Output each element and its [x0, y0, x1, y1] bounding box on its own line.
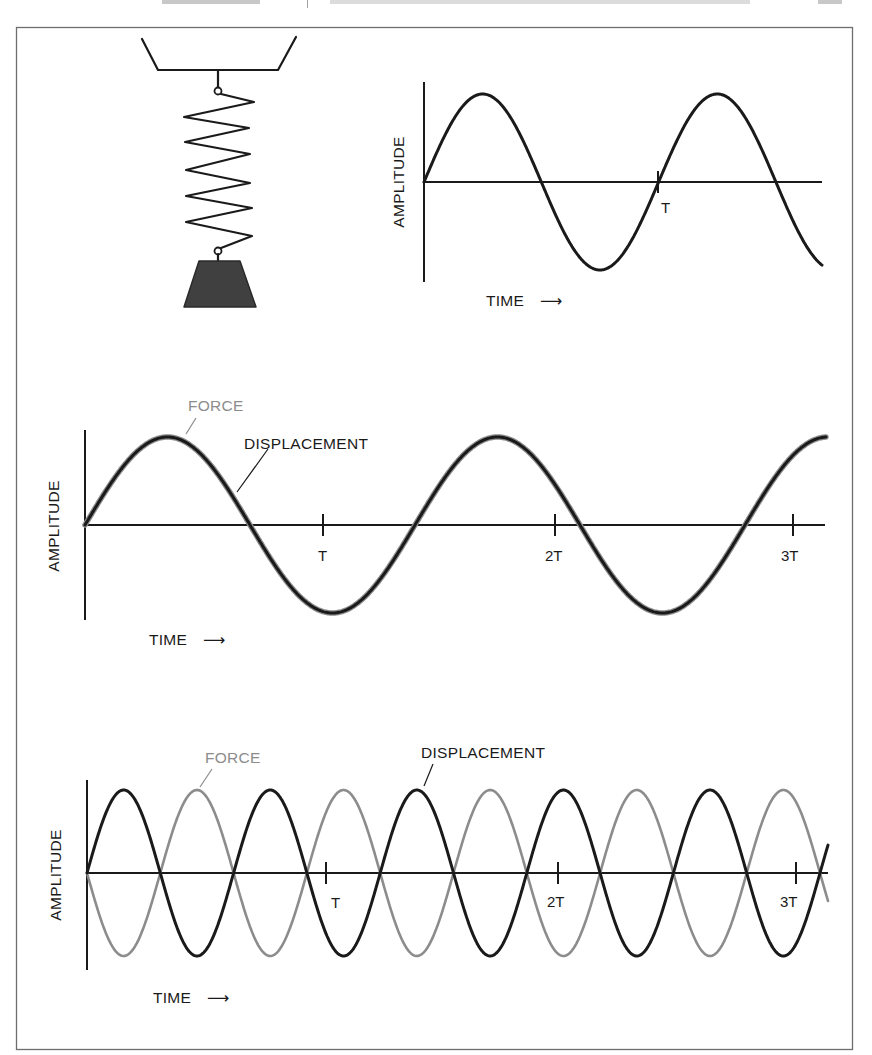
mass-weight: [184, 261, 256, 307]
chart-axes: [87, 780, 828, 970]
displacement-annotation: DISPLACEMENT: [421, 744, 545, 761]
time-arrow-icon: ⟶: [207, 989, 230, 1006]
spring-coil: [184, 94, 254, 248]
tick-label-T: T: [331, 894, 340, 911]
y-axis-label: AMPLITUDE: [390, 136, 407, 227]
x-axis-label: TIME: [149, 631, 187, 648]
spring-mass-diagram: [142, 37, 296, 307]
displacement-leader-line: [424, 764, 433, 786]
chart-axes: [85, 430, 825, 620]
chart-out-of-phase: AMPLITUDE TIME ⟶ T 2T 3T FORCE DISPLACEM…: [47, 744, 828, 1006]
displacement-leader-line: [237, 449, 268, 492]
tick-label-3T: 3T: [780, 893, 798, 910]
time-arrow-icon: ⟶: [203, 631, 226, 648]
figure-frame: [17, 28, 853, 1050]
displacement-annotation: DISPLACEMENT: [244, 435, 368, 452]
tick-label-2T: 2T: [545, 547, 563, 564]
force-leader-line: [200, 769, 212, 787]
force-leader-line: [186, 418, 196, 434]
y-axis-label: AMPLITUDE: [47, 829, 64, 920]
tick-label-3T: 3T: [781, 547, 799, 564]
force-annotation: FORCE: [188, 397, 244, 414]
time-arrow-icon: ⟶: [540, 292, 563, 309]
figure: AMPLITUDE TIME ⟶ T AMPLITUDE TIME ⟶ T 2T…: [0, 0, 872, 1055]
tick-label-2T: 2T: [547, 893, 565, 910]
chart-resonance-in-phase: AMPLITUDE TIME ⟶ T 2T 3T FORCE DISPLACEM…: [45, 397, 826, 648]
force-annotation: FORCE: [205, 749, 261, 766]
x-axis-label: TIME: [486, 292, 524, 309]
ceiling-support: [142, 37, 296, 70]
tick-label-T: T: [661, 199, 670, 216]
chart-free-oscillation: AMPLITUDE TIME ⟶ T: [390, 82, 822, 309]
tick-label-T: T: [318, 547, 327, 564]
y-axis-label: AMPLITUDE: [45, 480, 62, 571]
x-axis-label: TIME: [153, 989, 191, 1006]
